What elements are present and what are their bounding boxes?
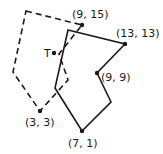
label-3-3: (3, 3) (25, 116, 55, 129)
dashed-polygon (13, 11, 82, 111)
label-7-1: (7, 1) (68, 137, 98, 150)
label-t: T (43, 47, 51, 60)
label-13-13: (13, 13) (116, 27, 160, 40)
point-9-15 (80, 23, 84, 27)
point-3-3 (38, 109, 42, 113)
point-9-9 (95, 71, 99, 75)
label-9-15: (9, 15) (72, 8, 109, 21)
point-7-1 (80, 129, 84, 133)
point-13-13 (123, 42, 127, 46)
label-9-9: (9, 9) (101, 71, 131, 84)
diagram-canvas: (9, 15) (13, 13) (9, 9) (7, 1) (3, 3) T (0, 0, 163, 154)
point-t (52, 51, 56, 55)
